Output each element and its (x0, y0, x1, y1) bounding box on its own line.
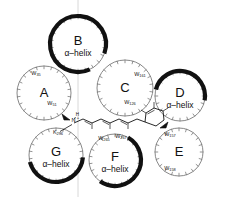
helix-sublabel-g: α–helix (42, 159, 70, 169)
schiff-base-hydrogen-label: H (76, 112, 79, 117)
tick-mark (68, 96, 72, 97)
helix-wheel-c: CW161W126 (97, 60, 153, 117)
tick-mark (29, 158, 33, 159)
helix-wheel-a: AW35W51 (17, 66, 71, 121)
helix-wheel-e: EW157W158 (155, 128, 204, 177)
tick-mark (17, 96, 21, 97)
helix-sublabel-f: α–helix (101, 164, 129, 174)
helix-wheel-b: Bα–helix (50, 16, 106, 73)
figure-canvas: AW35W51Bα–helixCW161W126Dα–helixEW157W15… (0, 0, 225, 197)
helix-label-f: F (111, 149, 119, 164)
tick-mark (68, 89, 72, 90)
helix-wheel-d: Dα–helix (155, 71, 206, 122)
helical-wheel-diagram: AW35W51Bα–helixCW161W126Dα–helixEW157W15… (0, 0, 225, 197)
beta-ionone-ring (145, 108, 164, 126)
tick-mark (89, 163, 93, 164)
methyl-groups (92, 123, 128, 129)
helix-label-c: C (120, 80, 129, 95)
tick-mark (150, 84, 154, 85)
tick-mark (89, 156, 93, 157)
tick-mark (29, 151, 33, 152)
helix-sublabel-d: α–helix (166, 100, 194, 110)
helix-wheel-f: Fα–helixW265W267 (89, 133, 141, 186)
tick-mark (80, 151, 84, 152)
helix-label-a: A (40, 85, 49, 100)
helix-label-e: E (175, 144, 184, 159)
tick-mark (150, 92, 154, 93)
helix-label-b: B (74, 33, 83, 48)
arrow-to-helix-a (62, 114, 70, 120)
helix-label-g: G (51, 144, 61, 159)
tick-mark (17, 89, 21, 90)
helix-label-d: D (175, 85, 184, 100)
helix-wheel-g: Gα–helixK296 (29, 128, 83, 183)
tick-mark (97, 84, 101, 85)
arrow-to-helix-e (160, 122, 168, 128)
ring-double-bond (148, 110, 155, 114)
helix-sublabel-b: α–helix (64, 48, 92, 58)
tick-mark (97, 92, 101, 93)
